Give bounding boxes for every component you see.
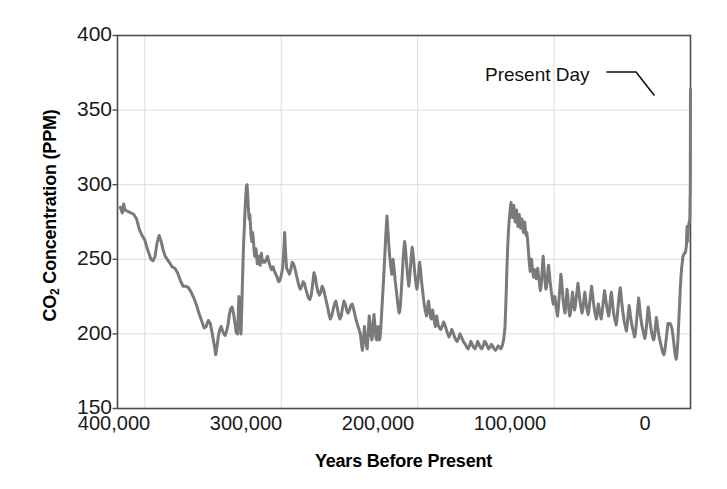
co2-concentration-chart: CO2 Concentration (PPM) 400 350 300 250 … <box>0 0 727 489</box>
plot-frame <box>118 36 691 409</box>
present-day-leader-line <box>607 72 654 95</box>
plot-area <box>0 0 727 489</box>
data-line-co2 <box>120 89 690 359</box>
